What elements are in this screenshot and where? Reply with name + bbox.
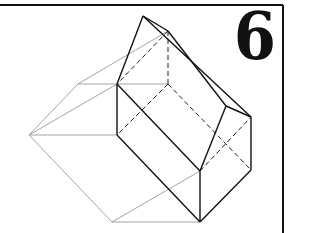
- edge-HI: [226, 106, 251, 117]
- edge-CJ: [117, 84, 200, 171]
- edge-FC: [29, 84, 117, 135]
- figure-number-label: 6: [230, 2, 280, 70]
- edge-DK: [168, 84, 251, 170]
- edge-BH: [168, 31, 226, 106]
- edge-AC: [117, 16, 143, 84]
- edge-EB: [78, 31, 168, 84]
- construction-lines: [29, 31, 200, 222]
- edge-BC: [117, 31, 168, 84]
- edge-KL: [200, 170, 251, 222]
- edge-FM: [29, 135, 112, 222]
- edge-FE: [29, 84, 78, 135]
- edge-HJ: [200, 106, 226, 171]
- edge-AB: [143, 16, 168, 31]
- edge-MJ: [112, 171, 200, 222]
